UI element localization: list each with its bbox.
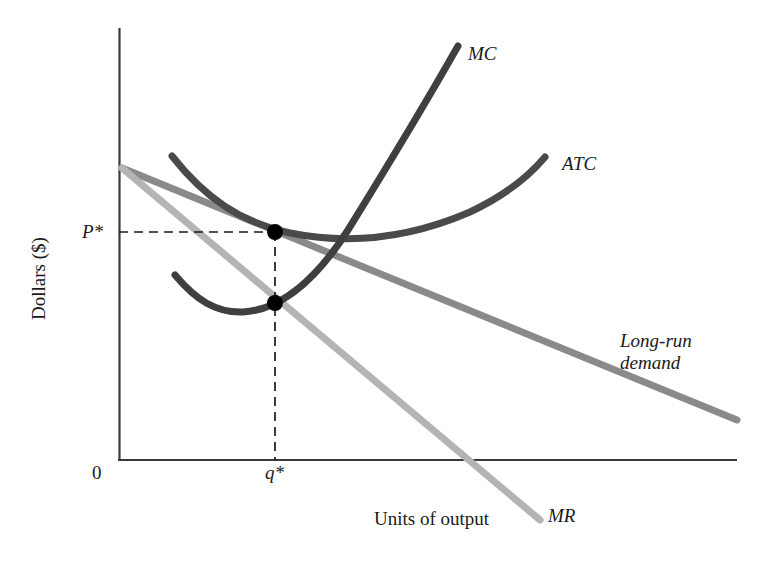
series-label-mc: MC [468,43,497,65]
y-axis-label: Dollars ($) [28,120,50,320]
x-axis-label: Units of output [374,508,489,530]
series-label-long-run-demand-line2: demand [620,352,680,373]
series-label-atc: ATC [562,153,596,175]
long-run-demand-curve [122,168,737,420]
equilibrium-price-point-marker [267,224,283,240]
marginal-revenue-curve [122,168,540,520]
chart-plot-area [0,0,774,572]
x-tick-label-quantity-star: q* [265,462,284,484]
axis-origin-label: 0 [92,462,102,484]
average-total-cost-curve [172,156,545,239]
mr-mc-intersection-point-marker [267,295,283,311]
series-label-mr: MR [548,505,575,527]
marginal-cost-curve [175,46,458,312]
series-label-long-run-demand-line1: Long-run [620,330,692,351]
chart-figure: Dollars ($) Units of output P* q* 0 MC A… [0,0,774,572]
series-label-long-run-demand: Long-rundemand [620,330,692,375]
y-tick-label-price-star: P* [82,221,103,243]
